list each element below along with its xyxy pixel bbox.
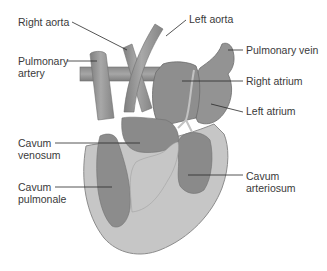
label-cavum-venosum: Cavum venosum	[18, 137, 61, 161]
label-left-aorta: Left aorta	[189, 13, 233, 25]
right-atrium-shape	[153, 62, 200, 126]
pulmonary-artery-trunk	[90, 51, 114, 120]
heart-diagram: Right aorta Left aorta Pulmonary artery …	[0, 0, 327, 271]
label-cavum-arteriosum: Cavum arteriosum	[246, 170, 296, 194]
leader-left-aorta	[166, 20, 186, 36]
label-pulmonary-artery: Pulmonary artery	[18, 55, 68, 79]
label-right-aorta: Right aorta	[18, 16, 69, 28]
label-pulmonary-vein: Pulmonary vein	[246, 44, 318, 56]
label-right-atrium: Right atrium	[246, 75, 303, 87]
label-cavum-pulmonale: Cavum pulmonale	[18, 181, 66, 205]
heart-illustration	[0, 0, 327, 271]
cavum-arteriosum-shape	[177, 133, 212, 194]
leader-right-aorta	[72, 22, 127, 50]
label-left-atrium: Left atrium	[246, 105, 296, 117]
